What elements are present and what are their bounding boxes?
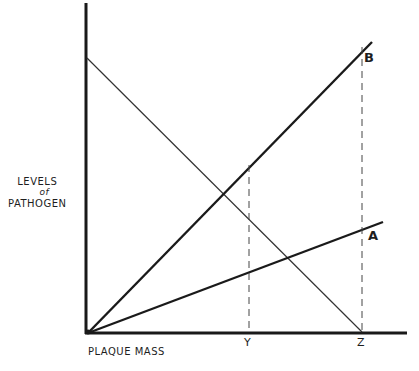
origin-point <box>86 330 91 335</box>
tick-label-z: Z <box>357 336 365 349</box>
y-axis-label-line2: of <box>8 187 67 198</box>
line-a <box>88 222 383 333</box>
y-axis-label: LEVELS of PATHOGEN <box>8 176 67 209</box>
line-a-label: A <box>368 228 379 243</box>
line-b-label: B <box>364 50 374 65</box>
x-axis-label: PLAQUE MASS <box>88 346 165 357</box>
tick-label-y: Y <box>244 336 251 349</box>
y-axis-label-line1: LEVELS <box>8 176 67 187</box>
y-axis-label-line3: PATHOGEN <box>8 198 67 209</box>
line-b <box>88 42 372 333</box>
